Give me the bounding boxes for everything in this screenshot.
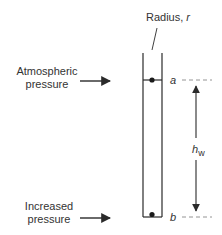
- point-a-label: a: [170, 74, 176, 86]
- capillary-diagram: Radius, r Atmospheric pressure Increased…: [0, 0, 222, 235]
- atmospheric-pressure-label-line1: Atmospheric: [16, 65, 78, 77]
- increased-pressure-label-line1: Increased: [25, 200, 73, 212]
- capillary-tube: [143, 53, 162, 217]
- height-label: hw: [192, 143, 205, 158]
- radius-label: Radius, r: [146, 11, 191, 23]
- increased-pressure-label-line2: pressure: [28, 213, 71, 225]
- point-b-label: b: [170, 211, 176, 223]
- point-b-dot: [149, 212, 154, 217]
- point-a-dot: [149, 77, 154, 82]
- radius-leader-line: [152, 28, 157, 50]
- atmospheric-pressure-label-line2: pressure: [26, 78, 69, 90]
